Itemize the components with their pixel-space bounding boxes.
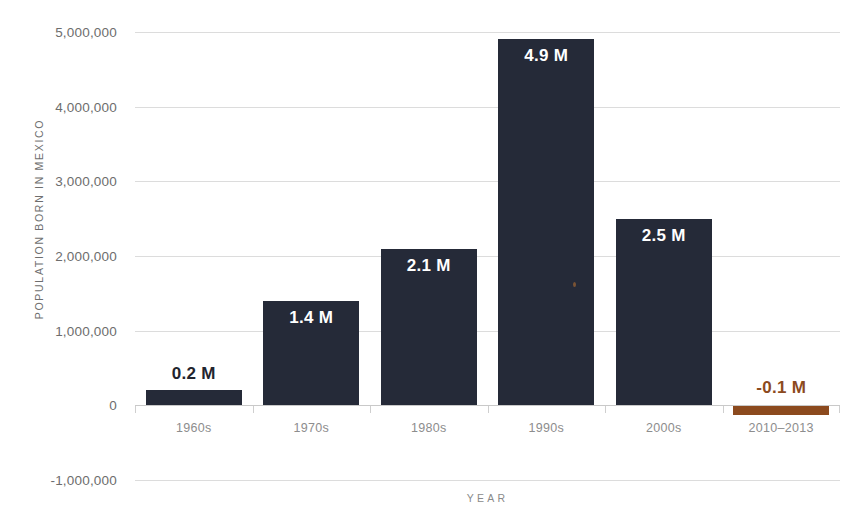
gridline: [135, 331, 840, 332]
y-axis-tick-label: -1,000,000: [5, 473, 117, 488]
y-axis-tick-label: 1,000,000: [5, 323, 117, 338]
bar-value-label: 2.5 M: [602, 226, 726, 246]
axis-tick-mark: [605, 406, 606, 413]
axis-tick-mark: [488, 406, 489, 413]
gridline: [135, 107, 840, 108]
x-axis-tick-label: 1960s: [135, 421, 253, 435]
bar-value-label: 4.9 M: [484, 46, 608, 66]
axis-tick-mark: [723, 406, 724, 413]
x-axis-tick-label: 2010–2013: [723, 421, 841, 435]
axis-tick-mark: [253, 406, 254, 413]
bar-value-label: -0.1 M: [719, 378, 843, 398]
y-axis-tick-label: 4,000,000: [5, 99, 117, 114]
bar-value-label: 1.4 M: [249, 308, 373, 328]
y-axis-tick-label: 3,000,000: [5, 174, 117, 189]
plot-area: 5,000,0004,000,0003,000,0002,000,0001,00…: [135, 32, 840, 480]
gridline: [135, 480, 840, 481]
bar-value-label: 2.1 M: [367, 256, 491, 276]
y-axis-title: POPULATION BORN IN MEXICO: [26, 32, 52, 406]
bar-chart: POPULATION BORN IN MEXICO 5,000,0004,000…: [0, 0, 868, 521]
gridline: [135, 32, 840, 33]
x-axis-tick-label: 1970s: [253, 421, 371, 435]
gridline: [135, 181, 840, 182]
bar[interactable]: [616, 219, 712, 406]
y-axis-tick-label: 2,000,000: [5, 249, 117, 264]
x-axis-title: YEAR: [135, 492, 840, 504]
x-axis-tick-label: 1990s: [488, 421, 606, 435]
bar[interactable]: [146, 390, 242, 405]
bar[interactable]: [733, 406, 829, 415]
axis-tick-mark: [135, 406, 136, 413]
axis-tick-mark: [370, 406, 371, 413]
y-axis-tick-label: 5,000,000: [5, 25, 117, 40]
x-axis-tick-label: 1980s: [370, 421, 488, 435]
bar[interactable]: [498, 39, 594, 405]
bar-value-label: 0.2 M: [132, 364, 256, 384]
y-axis-tick-label: 0: [5, 398, 117, 413]
x-axis-tick-label: 2000s: [605, 421, 723, 435]
axis-tick-mark: [839, 406, 840, 413]
scan-artifact-speck: [573, 282, 576, 287]
